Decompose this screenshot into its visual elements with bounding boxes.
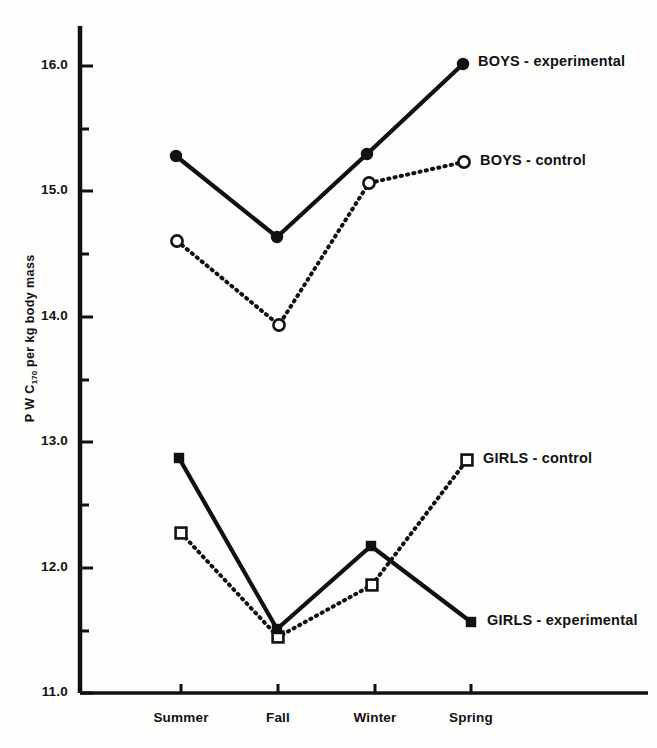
y-tick-label-13: 13.0: [12, 433, 68, 448]
x-tick-label-fall: Fall: [228, 710, 328, 725]
data-point: [361, 148, 373, 160]
data-point: [272, 624, 282, 634]
series-label-boys-experimental: BOYS - experimental: [478, 53, 625, 69]
series-line-boys-control: [177, 162, 464, 325]
data-point: [174, 453, 184, 463]
series-label-boys-control: BOYS - control: [480, 152, 586, 168]
data-point: [462, 455, 473, 466]
data-point: [466, 617, 476, 627]
y-tick-label-12: 12.0: [12, 559, 68, 574]
y-tick-label-15: 15.0: [12, 182, 68, 197]
series-label-girls-control: GIRLS - control: [483, 450, 592, 466]
data-point: [366, 541, 376, 551]
y-axis-title: P W C170 per kg body mass: [23, 213, 40, 463]
y-tick-label-11: 11.0: [12, 684, 68, 699]
y-tick-label-14: 14.0: [12, 308, 68, 323]
series-label-girls-experimental: GIRLS - experimental: [487, 612, 638, 628]
chart-plot-area: [0, 0, 657, 748]
series-line-boys-experimental: [176, 64, 463, 237]
data-point: [176, 528, 187, 539]
data-point: [457, 58, 469, 70]
y-axis-title-main: P W C: [23, 384, 37, 422]
y-axis-title-subscript: 170: [30, 371, 39, 384]
data-point: [271, 231, 283, 243]
data-point: [273, 319, 284, 330]
data-point: [458, 156, 469, 167]
y-tick-label-16: 16.0: [12, 57, 68, 72]
data-point: [367, 580, 378, 591]
series-girls-experimental: [174, 453, 476, 634]
chart-figure: P W C170 per kg body mass 16.0 15.0 14.0…: [0, 0, 657, 748]
x-tick-label-summer: Summer: [131, 710, 231, 725]
series-girls-control: [176, 455, 473, 643]
x-tick-label-winter: Winter: [325, 710, 425, 725]
x-tick-label-spring: Spring: [421, 710, 521, 725]
data-point: [170, 150, 182, 162]
data-point: [171, 235, 182, 246]
series-boys-control: [171, 156, 469, 330]
series-line-girls-experimental: [179, 458, 471, 629]
data-point: [363, 177, 374, 188]
axis-lines: [80, 26, 648, 693]
series-line-girls-control: [181, 460, 467, 637]
series-boys-experimental: [170, 58, 469, 243]
